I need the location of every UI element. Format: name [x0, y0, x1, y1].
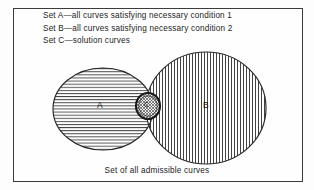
- figure-caption: Set of all admissible curves: [0, 166, 314, 175]
- set-c-label: C: [144, 101, 149, 108]
- figure-page: Set A—all curves satisfying necessary co…: [0, 0, 314, 190]
- set-a-label: A: [97, 100, 103, 110]
- venn-diagram: [0, 0, 314, 190]
- set-b-label: B: [203, 100, 209, 110]
